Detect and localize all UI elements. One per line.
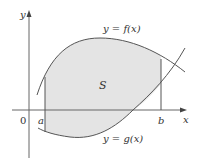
area-between-curves-diagram: y x 0 a b S y = f(x) y = g(x) — [0, 0, 203, 165]
f-curve-label: y = f(x) — [102, 23, 141, 34]
origin-label: 0 — [20, 115, 26, 126]
x-axis-label: x — [183, 114, 189, 125]
b-label: b — [158, 115, 164, 126]
a-label: a — [38, 115, 44, 126]
g-curve-label: y = g(x) — [102, 133, 143, 144]
region-s-label: S — [99, 79, 107, 92]
x-axis-arrow-icon — [180, 108, 187, 113]
y-axis-label: y — [19, 9, 26, 20]
y-axis-arrow-icon — [27, 10, 32, 17]
